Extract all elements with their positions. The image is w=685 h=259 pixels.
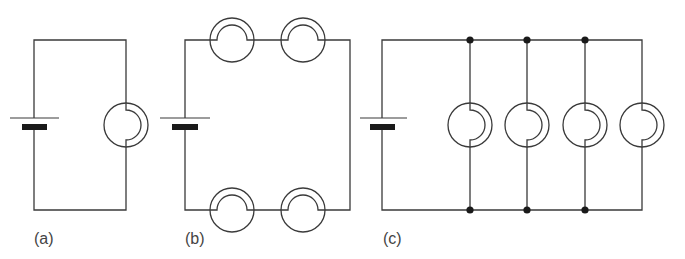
circuit-b [160, 18, 350, 232]
circuit-a [10, 40, 148, 210]
panel-label-a: (a) [34, 230, 54, 248]
circuit-diagrams [0, 0, 685, 259]
lamp-icon [448, 103, 492, 147]
circuit-c [360, 36, 664, 213]
lamp-icon [210, 18, 254, 62]
panel-label-c: (c) [383, 230, 402, 248]
lamp-icon [620, 103, 664, 147]
battery-icon [10, 118, 59, 130]
lamp-icon [104, 103, 148, 147]
battery-icon [360, 118, 407, 130]
panel-label-b: (b) [185, 230, 205, 248]
wire-b [185, 40, 350, 210]
lamp-icon [281, 188, 325, 232]
lamp-icon [210, 188, 254, 232]
battery-icon [160, 118, 210, 130]
lamp-icon [505, 103, 549, 147]
lamp-icon [281, 18, 325, 62]
lamp-icon [563, 103, 607, 147]
